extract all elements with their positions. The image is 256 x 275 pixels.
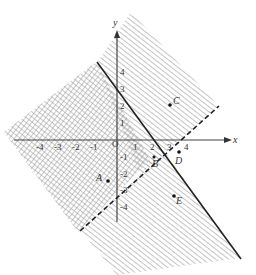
x-tick: 4 xyxy=(184,142,189,152)
point-e-label: E xyxy=(175,195,182,206)
x-tick: 1 xyxy=(133,142,138,152)
x-tick: 2 xyxy=(150,142,155,152)
x-tick: -3 xyxy=(54,142,62,152)
point-c-label: C xyxy=(173,95,180,106)
y-axis-label: y xyxy=(112,17,118,28)
y-tick: -2 xyxy=(120,169,128,179)
point-a xyxy=(106,179,110,183)
y-tick: 4 xyxy=(120,67,125,77)
x-tick: -4 xyxy=(36,142,44,152)
point-d-label: D xyxy=(174,155,183,166)
x-axis-label: x xyxy=(232,134,238,145)
x-axis-arrow-icon xyxy=(224,137,232,143)
point-d xyxy=(177,150,181,154)
point-b-label: B xyxy=(152,158,158,169)
x-tick: -1 xyxy=(90,142,98,152)
x-tick: -2 xyxy=(72,142,80,152)
point-c xyxy=(168,103,172,107)
y-tick: 3 xyxy=(120,84,125,94)
point-a-label: A xyxy=(95,172,103,183)
y-tick: 1 xyxy=(120,118,125,128)
origin-label: O xyxy=(112,139,119,149)
inequality-graph: x y O -4 -3 -2 -1 1 2 3 4 4 3 2 1 -1 -2 … xyxy=(0,0,256,275)
y-tick: -1 xyxy=(120,152,128,162)
y-tick: 2 xyxy=(120,101,125,111)
y-tick: -4 xyxy=(120,202,128,212)
y-tick: -3 xyxy=(120,185,128,195)
